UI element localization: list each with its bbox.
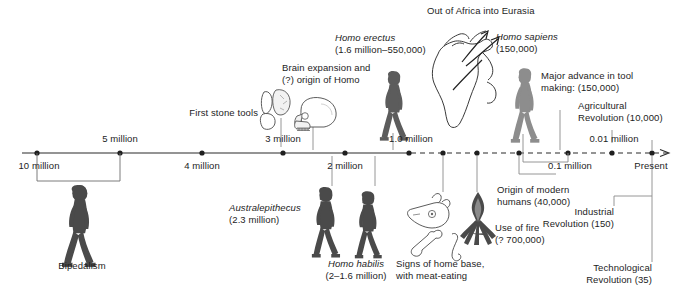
annotation-out-of-africa: Out of Africa into Eurasia — [427, 5, 535, 17]
annotation-brain-expansion-line2: (?) origin of Homo — [282, 74, 360, 86]
annotation-home-base-line1: Signs of home base, — [396, 258, 484, 270]
campfire-icon — [460, 192, 496, 245]
axis-label-0.1-million: 0.1 million — [528, 160, 612, 172]
stone-tools-icon — [260, 90, 290, 130]
annotation-industrial-line2: Revolution (150) — [520, 218, 614, 230]
africa-map-outline-icon — [432, 31, 496, 127]
brain-expansion-prefix: (?) origin of — [282, 74, 334, 85]
axis-label-2-million: 2 million — [305, 160, 385, 172]
annotation-tool-making-line1: Major advance in tool — [541, 70, 633, 82]
annotation-use-of-fire-line2: (? 700,000) — [495, 234, 545, 246]
axis-label-5-million: 5 million — [80, 133, 160, 145]
brain-expansion-italic-homo: Homo — [334, 74, 360, 85]
axis-label-1-million: 1.0 million — [369, 133, 453, 145]
annotation-first-stone-tools: First stone tools — [168, 107, 258, 119]
annotation-brain-expansion-line1: Brain expansion and — [282, 62, 370, 74]
annotation-homo-habilis-name: Homo habilis — [309, 258, 403, 270]
axis-label-10-million: 10 million — [0, 160, 80, 172]
annotation-homo-habilis-dates: (2–1.6 million) — [309, 270, 403, 282]
habilis-hominid-icon — [355, 191, 382, 258]
erectus-hominid-icon — [380, 71, 408, 141]
annotation-homo-erectus-name: Homo erectus — [335, 32, 395, 44]
australepithecus-icon — [312, 187, 340, 257]
axis-label-0.01-million: 0.01 million — [570, 133, 658, 145]
annotation-industrial-line1: Industrial — [520, 206, 614, 218]
axis-label-present: Present — [620, 160, 682, 172]
annotation-home-base-line2: with meat-eating — [396, 270, 467, 282]
annotation-agricultural-line2: Revolution (10,000) — [578, 112, 663, 124]
annotation-technological-line2: Revolution (35) — [558, 274, 652, 286]
bipedal-hominid-icon — [62, 185, 96, 267]
annotation-origin-modern-line1: Origin of modern — [497, 184, 569, 196]
annotation-agricultural-line1: Agricultural — [578, 100, 627, 112]
annotation-homo-erectus-dates: (1.6 million–550,000) — [335, 44, 426, 56]
annotation-tool-making-line2: making: (150,000) — [541, 82, 619, 94]
timeline-diagram: 10 million 5 million 4 million 3 million… — [0, 0, 694, 300]
axis-label-4-million: 4 million — [162, 160, 242, 172]
annotation-australepithecus-dates: (2.3 million) — [229, 214, 279, 226]
annotation-australepithecus-name: Australepithecus — [229, 202, 301, 214]
skull-and-bones-icon — [408, 194, 461, 261]
annotation-homo-sapiens-dates: (150,000) — [496, 43, 538, 55]
sapiens-human-icon — [511, 68, 540, 143]
axis-label-3-million: 3 million — [243, 133, 323, 145]
annotation-technological-line1: Technological — [558, 262, 652, 274]
hominid-skull-icon — [295, 98, 337, 132]
annotation-bipedalism: Bipedalism — [36, 260, 128, 272]
annotation-homo-sapiens-name: Homo sapiens — [496, 31, 558, 43]
